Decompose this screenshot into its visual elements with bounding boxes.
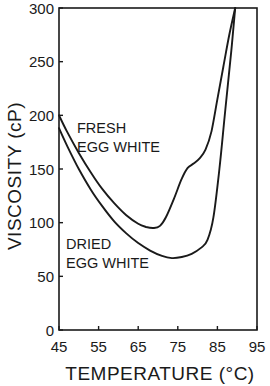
- x-tick-label: 85: [209, 338, 226, 355]
- x-tick-label: 65: [130, 338, 147, 355]
- y-tick-label: 0: [46, 322, 54, 339]
- x-tick-label: 95: [249, 338, 266, 355]
- viscosity-chart: 050100150200250300 455565758595 FRESHEGG…: [0, 0, 270, 386]
- x-tick-label: 75: [169, 338, 186, 355]
- y-axis: 050100150200250300: [29, 0, 63, 339]
- x-axis-title: TEMPERATURE (°C): [65, 363, 254, 384]
- fresh-egg-white-curve: [59, 8, 235, 228]
- y-tick-label: 200: [29, 107, 54, 124]
- y-tick-label: 50: [37, 268, 54, 285]
- y-tick-label: 300: [29, 0, 54, 17]
- x-tick-label: 55: [90, 338, 107, 355]
- fresh-egg-white-label: FRESHEGG WHITE: [77, 120, 160, 155]
- x-tick-label: 45: [51, 338, 68, 355]
- y-tick-label: 150: [29, 161, 54, 178]
- y-tick-label: 250: [29, 53, 54, 70]
- y-tick-label: 100: [29, 214, 54, 231]
- y-axis-title: VISCOSITY (cP): [4, 102, 25, 250]
